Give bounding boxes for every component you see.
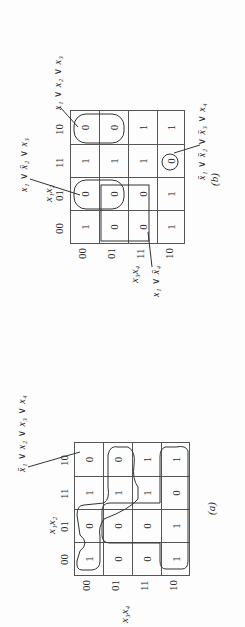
- map-b-cell: 1: [100, 144, 129, 177]
- map-a-row-label-00: 00: [80, 580, 92, 591]
- map-a-cell: 1: [75, 542, 104, 575]
- map-b-col-label-10: 10: [53, 124, 65, 135]
- map-a-cell: 1: [162, 509, 189, 542]
- map-a-cell: 0: [133, 542, 162, 575]
- map-a-row-variable: x₃x₄: [118, 606, 130, 623]
- map-b-formula-x1-nx4: x₁∨x̄₄: [150, 265, 161, 297]
- map-a-cell: 1: [133, 476, 162, 509]
- map-a-cell: 1: [104, 476, 133, 509]
- map-b-col-label-00: 00: [53, 223, 65, 234]
- map-a-cell: 0: [104, 542, 133, 575]
- map-b-cell: 0: [71, 177, 100, 210]
- map-a-leader-line: [28, 452, 80, 467]
- map-b-cell: 1: [158, 177, 184, 210]
- map-a-cell: 0: [104, 509, 133, 542]
- map-a-row-label-01: 01: [109, 580, 121, 591]
- map-b-cell: 1: [129, 111, 158, 144]
- map-b-cell: 1: [158, 210, 184, 243]
- map-a-cell: 0: [104, 443, 133, 476]
- map-b-row-label-00: 00: [76, 248, 88, 259]
- map-a-cell: 1: [75, 476, 104, 509]
- map-a-grid: 1 0 1 0 0 0 1 0 0 0 1 1 1 1 0 1: [74, 442, 190, 576]
- map-a-col-variable: x₁x₂: [45, 517, 57, 534]
- map-a-cell: 1: [133, 443, 162, 476]
- map-b-cell: 1: [158, 111, 184, 144]
- map-b-formula-nx1-nx2-nx3-x4: x̄₁∨x̄₂∨x̄₃∨x₄: [196, 103, 207, 180]
- map-b-cell: 0: [129, 177, 158, 210]
- map-b-col-label-11: 11: [53, 157, 65, 168]
- map-b-cell: 1: [129, 144, 158, 177]
- map-a-row-label-11: 11: [138, 580, 150, 591]
- map-a-col-label-10: 10: [58, 455, 70, 466]
- map-b-row-label-11: 11: [134, 248, 146, 259]
- map-b-cell: 0: [100, 177, 129, 210]
- map-a-col-label-01: 01: [58, 521, 70, 532]
- map-b-col-label-01: 01: [53, 190, 65, 201]
- map-a-cell: 0: [162, 476, 189, 509]
- map-a-col-label-11: 11: [58, 488, 70, 499]
- map-b-cell: 0: [71, 111, 100, 144]
- map-b-formula-x1-nx2-x3: x₁∨x̄₂∨x₃: [18, 138, 29, 192]
- map-b-caption: (b): [208, 173, 220, 186]
- map-b-row-label-10: 10: [163, 248, 175, 259]
- map-b-cell: 0: [129, 210, 158, 243]
- map-b-cell: 0: [100, 111, 129, 144]
- map-b-formula-x1-x2-x3: x₁∨x₂∨x₃: [52, 56, 63, 110]
- map-a-cell: 0: [75, 509, 104, 542]
- map-b-cell: 1: [71, 144, 100, 177]
- map-a-cell: 0: [75, 443, 104, 476]
- map-b-cell: 0: [100, 210, 129, 243]
- map-a-caption: (a): [205, 502, 217, 515]
- map-b-row-label-01: 01: [105, 248, 117, 259]
- map-a-formula: x̄₁∨x₂∨x₃∨x₄: [16, 395, 27, 472]
- map-a-cell: 1: [162, 542, 189, 575]
- map-a-col-label-00: 00: [58, 554, 70, 565]
- map-a-cell: 0: [133, 509, 162, 542]
- map-b-row-variable: x₃x₄: [128, 266, 140, 283]
- map-b-grid: 1 0 1 0 0 0 1 0 0 0 1 1 1 1 0 1: [70, 110, 185, 244]
- map-b-cell: 1: [71, 210, 100, 243]
- map-a-row-label-10: 10: [167, 580, 179, 591]
- map-a-cell: 1: [162, 443, 189, 476]
- karnaugh-map-figure: x̄₁∨x₂∨x₃∨x₄ x₁x₂ 00 01 11 10 00 01 11 1…: [0, 0, 245, 627]
- map-b-cell: 0: [158, 144, 184, 177]
